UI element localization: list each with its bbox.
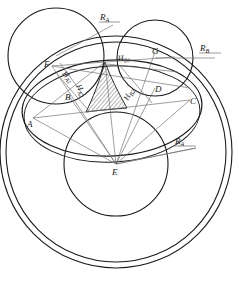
segment-E-A [33,118,116,164]
point-label-E: E [111,167,118,177]
outer-circle-outer [0,36,232,268]
point-label-A: A [26,119,33,129]
chord-F-apex [52,62,105,66]
point-label-D: D [154,84,162,94]
leader-RA-bottom [116,148,196,164]
radius-sub-RA-top: A [105,17,110,23]
distance-label-HB1: HB1 [117,53,131,64]
outer-circle-inner [6,42,226,262]
radius-label-RA-bottom: RA [174,136,185,147]
leader-RA-top [56,25,113,56]
figure-root: A B C D E F G RA RB RA [0,0,239,281]
geometry-diagram: A B C D E F G RA RB RA [0,0,239,281]
upper-ellipse-inner [22,61,203,166]
outer-concentric-circles [0,36,232,268]
point-label-C: C [190,96,197,106]
point-label-B: B [65,92,71,102]
point-label-F: F [43,59,50,69]
distance-sub-HB1: B1 [124,57,131,63]
point-label-G: G [152,46,159,56]
chord-B-perp [57,74,90,112]
radius-sub-RA-bottom: A [180,141,185,147]
radius-label-RA-top: RA [99,12,110,23]
radius-sub-RB: B [206,48,210,54]
radius-label-RB-right: RB [199,43,210,54]
